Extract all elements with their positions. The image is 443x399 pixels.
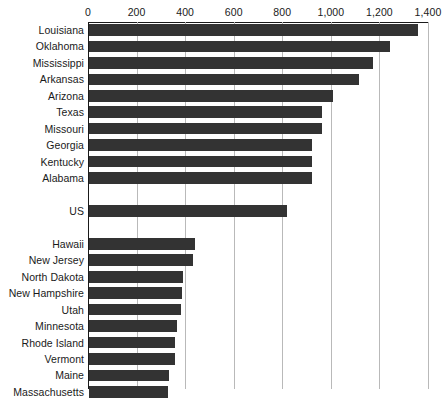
- bar: [89, 386, 168, 398]
- bar-row: [88, 154, 428, 170]
- bar: [89, 337, 175, 349]
- category-label: North Dakota: [0, 269, 84, 285]
- bar: [89, 90, 333, 102]
- bar-row: [88, 302, 428, 318]
- bar-row: [88, 88, 428, 104]
- bar-row: [88, 71, 428, 87]
- bar-row: [88, 121, 428, 137]
- category-label: Maine: [0, 367, 84, 383]
- bar: [89, 24, 418, 36]
- bar-row: [88, 203, 428, 219]
- x-tick-label: 1,200: [366, 6, 393, 19]
- category-label: New Hampshire: [0, 285, 84, 301]
- bar-row: [88, 384, 428, 399]
- bar-row: [88, 137, 428, 153]
- bar: [89, 156, 312, 168]
- bar-row: [88, 170, 428, 186]
- bar: [89, 106, 322, 118]
- bar-row: [88, 318, 428, 334]
- bar: [89, 74, 359, 86]
- x-tick-label: 600: [225, 6, 243, 19]
- x-tick-label: 800: [273, 6, 291, 19]
- bar: [89, 238, 195, 250]
- bar: [89, 205, 287, 217]
- category-label: New Jersey: [0, 252, 84, 268]
- bar: [89, 304, 181, 316]
- category-label: Oklahoma: [0, 38, 84, 54]
- bar: [89, 139, 312, 151]
- x-tick-label: 1,400: [415, 6, 442, 19]
- bar-row: [88, 236, 428, 252]
- bar-row: [88, 252, 428, 268]
- category-label: Vermont: [0, 351, 84, 367]
- category-label: Hawaii: [0, 236, 84, 252]
- bar: [89, 271, 183, 283]
- bar-row: [88, 22, 428, 38]
- bar: [89, 254, 193, 266]
- category-label: Georgia: [0, 137, 84, 153]
- category-label: Arizona: [0, 88, 84, 104]
- bar-row: [88, 269, 428, 285]
- bar-chart: 02004006008001,0001,2001,400 LouisianaOk…: [0, 0, 443, 399]
- category-label: Utah: [0, 302, 84, 318]
- bar: [89, 287, 182, 299]
- bar-row: [88, 285, 428, 301]
- category-label: Missouri: [0, 121, 84, 137]
- spacer-row: [88, 219, 428, 235]
- bar: [89, 370, 169, 382]
- category-label: Massachusetts: [0, 384, 84, 399]
- category-label: Minnesota: [0, 318, 84, 334]
- bar: [89, 353, 175, 365]
- category-label: Louisiana: [0, 22, 84, 38]
- x-tick-label: 400: [176, 6, 194, 19]
- bar-row: [88, 38, 428, 54]
- category-label: Mississippi: [0, 55, 84, 71]
- category-label: Rhode Island: [0, 335, 84, 351]
- bar-row: [88, 335, 428, 351]
- bar: [89, 57, 373, 69]
- bar-row: [88, 104, 428, 120]
- plot-area: [88, 22, 428, 389]
- spacer-row: [88, 187, 428, 203]
- bar: [89, 172, 312, 184]
- x-axis-tick-labels: 02004006008001,0001,2001,400: [0, 6, 443, 20]
- bar-row: [88, 351, 428, 367]
- x-tick-label: 0: [85, 6, 91, 19]
- category-label: US: [0, 203, 84, 219]
- x-tick-label: 200: [128, 6, 146, 19]
- bar-row: [88, 55, 428, 71]
- category-label: Arkansas: [0, 71, 84, 87]
- category-label: Texas: [0, 104, 84, 120]
- bar: [89, 41, 390, 53]
- bar: [89, 320, 177, 332]
- x-tick-label: 1,000: [317, 6, 344, 19]
- category-label: Alabama: [0, 170, 84, 186]
- bar: [89, 123, 322, 135]
- gridline: [428, 22, 429, 389]
- bar-row: [88, 367, 428, 383]
- category-label: Kentucky: [0, 154, 84, 170]
